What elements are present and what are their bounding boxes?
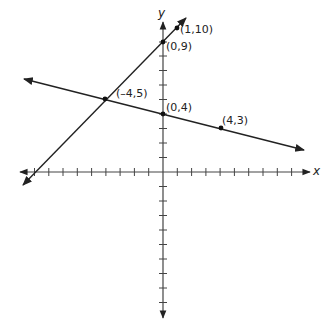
y-axis-label: y bbox=[158, 6, 165, 20]
x-axis-label: x bbox=[313, 164, 320, 178]
label-1-10: (1,10) bbox=[180, 23, 213, 36]
label-0-4: (0,4) bbox=[166, 101, 192, 114]
point-0-9 bbox=[161, 40, 166, 45]
point-0-4 bbox=[161, 112, 166, 117]
label-4-3: (4,3) bbox=[222, 114, 248, 127]
label-0-9: (0,9) bbox=[166, 40, 192, 53]
point-1-10 bbox=[175, 26, 180, 31]
label-neg4-5: (–4,5) bbox=[116, 87, 148, 100]
point-neg4-5 bbox=[103, 97, 108, 102]
